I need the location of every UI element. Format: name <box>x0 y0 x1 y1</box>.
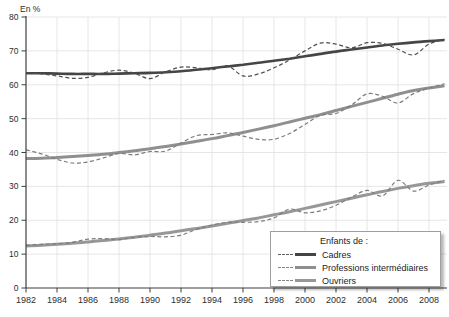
ouvriers-dashed-swatch <box>278 280 293 281</box>
series-professions-trend <box>26 86 445 159</box>
x-tick-label: 2008 <box>419 295 439 305</box>
x-tick-label: 1990 <box>140 295 160 305</box>
x-tick-label: 1984 <box>47 295 67 305</box>
ouvriers-line-swatch <box>278 279 318 282</box>
legend-label-cadres: Cadres <box>322 250 351 260</box>
legend-label-professions: Professions intermédiaires <box>322 263 428 273</box>
series-professions-observed <box>26 84 445 163</box>
y-tick-label: 10 <box>9 249 19 259</box>
y-tick-label: 40 <box>9 148 19 158</box>
professions-solid-swatch <box>295 266 316 269</box>
y-tick-label: 0 <box>14 283 19 293</box>
x-tick-label: 1994 <box>202 295 222 305</box>
x-tick-label: 1986 <box>78 295 98 305</box>
ouvriers-solid-swatch <box>295 279 316 282</box>
x-tick-label: 1992 <box>171 295 191 305</box>
legend: Enfants de : Cadres Professions interméd… <box>270 231 441 287</box>
legend-item-professions-intermediaires: Professions intermédiaires <box>278 261 435 274</box>
x-tick-label: 2000 <box>295 295 315 305</box>
x-tick-label: 1982 <box>16 295 36 305</box>
professions-dashed-swatch <box>278 267 293 268</box>
legend-label-ouvriers: Ouvriers <box>322 276 356 286</box>
x-tick-label: 2002 <box>326 295 346 305</box>
series-cadres-trend <box>26 40 445 74</box>
legend-item-cadres: Cadres <box>278 248 435 261</box>
x-tick-label: 1988 <box>109 295 129 305</box>
cadres-dashed-swatch <box>278 254 293 255</box>
cadres-solid-swatch <box>295 253 316 256</box>
y-tick-label: 30 <box>9 181 19 191</box>
legend-title: Enfants de : <box>320 235 435 248</box>
y-tick-label: 80 <box>9 12 19 22</box>
cadres-line-swatch <box>278 253 318 256</box>
y-tick-label: 20 <box>9 215 19 225</box>
x-tick-label: 2006 <box>388 295 408 305</box>
y-axis-unit-label: En % <box>20 4 41 14</box>
x-tick-label: 2004 <box>357 295 377 305</box>
x-tick-label: 1998 <box>264 295 284 305</box>
y-tick-label: 70 <box>9 46 19 56</box>
y-tick-label: 50 <box>9 114 19 124</box>
professions-line-swatch <box>278 266 318 269</box>
figure: selon le milieu social. 0102030405060708… <box>0 0 449 317</box>
x-tick-label: 1996 <box>233 295 253 305</box>
legend-item-ouvriers: Ouvriers <box>278 274 435 287</box>
y-tick-label: 60 <box>9 80 19 90</box>
